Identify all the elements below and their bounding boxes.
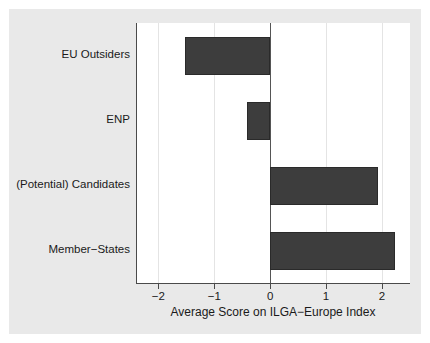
x-tick-mark — [214, 284, 215, 289]
x-tick-label: 1 — [306, 290, 346, 302]
x-tick-label: −1 — [194, 290, 234, 302]
y-axis-tick-labels: EU OutsidersENP(Potential) CandidatesMem… — [0, 23, 136, 283]
y-tick-label: Member−States — [6, 243, 136, 255]
x-tick-mark — [382, 284, 383, 289]
gridline-x — [158, 23, 159, 283]
x-tick-label: 2 — [362, 290, 402, 302]
bar — [185, 37, 271, 75]
y-tick-label: (Potential) Candidates — [6, 178, 136, 190]
x-tick-mark — [270, 284, 271, 289]
x-tick-label: 0 — [250, 290, 290, 302]
x-axis-title: Average Score on ILGA−Europe Index — [136, 305, 410, 319]
x-tick-mark — [326, 284, 327, 289]
plot-area — [136, 23, 410, 283]
x-tick-label: −2 — [138, 290, 178, 302]
chart-figure: EU OutsidersENP(Potential) CandidatesMem… — [0, 0, 430, 343]
y-axis-line — [136, 23, 137, 284]
bar — [270, 232, 395, 270]
bar — [270, 167, 377, 205]
y-tick-label: ENP — [6, 113, 136, 125]
y-tick-label: EU Outsiders — [6, 48, 136, 60]
bar — [247, 102, 270, 140]
x-tick-mark — [158, 284, 159, 289]
x-axis-line — [136, 283, 410, 284]
